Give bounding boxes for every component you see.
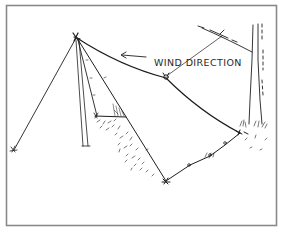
tree [198, 24, 263, 124]
frame-border [7, 6, 277, 226]
grommets [188, 142, 227, 167]
tarp-shelter-illustration: WIND DIRECTION [0, 0, 282, 233]
wind-arrow [121, 52, 146, 58]
drawing-canvas: WIND DIRECTION [0, 0, 282, 233]
guy-line [14, 38, 76, 150]
wind-direction-label: WIND DIRECTION [154, 57, 242, 68]
tarp-front-edge [77, 38, 166, 181]
ridge-line-back [166, 78, 240, 133]
inner-support-line [78, 40, 97, 116]
side-crossbar [95, 116, 126, 117]
grass-tree-base [240, 120, 267, 150]
ridge-line-front [77, 38, 166, 78]
tarp-bottom-edge [166, 133, 240, 181]
label-pointer [168, 36, 222, 75]
